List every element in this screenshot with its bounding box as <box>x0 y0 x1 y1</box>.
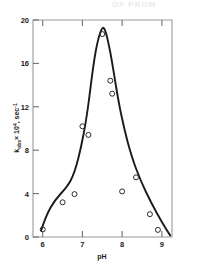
y-tick-label-12: 12 <box>21 103 29 112</box>
data-point <box>86 132 91 137</box>
page-bleed-text: OF PROM <box>112 0 206 9</box>
y-tick-label-16: 16 <box>21 59 29 68</box>
data-point <box>134 175 139 180</box>
figure-container: OF PROM <box>0 0 206 265</box>
x-tick-labels: 6 7 8 9 <box>41 240 164 249</box>
ph-rate-profile-chart: 6 7 8 9 0 4 8 12 16 20 <box>0 0 206 265</box>
x-tick-label-2: 8 <box>120 240 124 249</box>
x-tick-label-0: 6 <box>41 240 45 249</box>
data-point <box>155 227 160 232</box>
data-point <box>110 91 115 96</box>
y-tick-label-0: 0 <box>25 233 29 242</box>
data-point <box>72 192 77 197</box>
y-tick-label-20: 20 <box>21 16 29 25</box>
data-points <box>40 32 160 233</box>
y-axis-title-subscript: obs <box>16 140 22 149</box>
y-axis-title-units-exponent: -1 <box>12 103 18 108</box>
y-tick-labels: 0 4 8 12 16 20 <box>21 16 30 242</box>
y-axis-title-times: × 10 <box>13 126 20 140</box>
x-axis-title: pH <box>97 253 106 261</box>
data-point <box>147 212 152 217</box>
y-tick-label-4: 4 <box>25 190 30 199</box>
data-point <box>108 78 113 83</box>
data-point <box>120 189 125 194</box>
y-axis-title-units: , sec <box>13 108 21 124</box>
data-point <box>60 200 65 205</box>
y-axis-ticks <box>33 20 39 237</box>
x-tick-label-1: 7 <box>80 240 84 249</box>
y-tick-label-8: 8 <box>25 146 29 155</box>
x-tick-label-3: 9 <box>160 240 164 249</box>
